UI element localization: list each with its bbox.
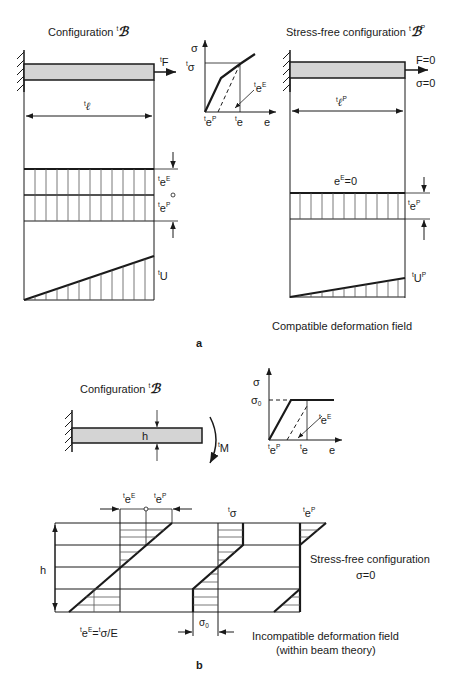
e-axis-label-a: e — [264, 116, 270, 128]
eP-top-label: teP — [154, 492, 166, 505]
profiles-frame — [55, 523, 300, 612]
beam-b — [72, 428, 202, 443]
length-label: tℓ — [84, 100, 91, 113]
config-title-b: Configuration tℬ — [80, 381, 162, 396]
sigma-zero-label: σ=0 — [416, 77, 435, 89]
stress-free-title-a: Stress-free configuration tℬP — [286, 24, 425, 39]
diagram-canvas: Configuration tℬ tF tℓ — [0, 0, 460, 691]
eE-zero-label: eE=0 — [334, 174, 357, 187]
fixed-wall-icon — [65, 410, 72, 452]
fixed-wall-icon — [283, 50, 290, 92]
elastic-strain-equation: teE=tσ/E — [80, 626, 118, 639]
eE-top-label: teE — [123, 492, 136, 505]
panel-label-a: a — [196, 337, 203, 349]
stress-free-sigma-b: σ=0 — [356, 569, 375, 581]
config-title-a-left: Configuration tℬ — [48, 24, 130, 39]
displacement-plot-a-right — [290, 278, 405, 297]
e-tick-b: te — [300, 443, 308, 456]
sigma-axis-label-b: σ — [253, 376, 260, 388]
stress-strain-plot-b — [269, 368, 342, 440]
strain-band-a-left — [24, 152, 178, 238]
beam-a-right — [290, 62, 405, 78]
UP-label: tUP — [412, 271, 426, 284]
incompatible-caption-2: (within beam theory) — [276, 644, 376, 656]
sigma0-tick-label: σ0 — [251, 394, 262, 407]
eP-label-a: teP — [158, 201, 170, 214]
h-label-profile: h — [40, 564, 46, 576]
fixed-wall-icon — [17, 50, 24, 92]
panel-a: Configuration tℬ tF tℓ — [17, 24, 435, 349]
force-label: tF — [160, 56, 169, 68]
eE-label-a: teE — [158, 175, 171, 188]
panel-b: Configuration tℬ h tM σ σ0 teE teP te e — [40, 368, 430, 671]
length-p-label: tℓP — [336, 95, 347, 109]
sigma-tick-label: tσ — [186, 60, 195, 73]
panel-label-b: b — [196, 659, 203, 671]
force-zero-label: F=0 — [416, 54, 435, 66]
moment-label: tM — [218, 441, 229, 454]
h-label-beam: h — [142, 430, 148, 442]
stress-free-title-b: Stress-free configuration — [310, 553, 430, 565]
eE-label-ss-b: teE — [319, 413, 332, 426]
stress-profile — [178, 523, 243, 636]
eP-right-label: teP — [303, 506, 315, 519]
sigma-axis-label: σ — [191, 42, 198, 54]
sigma0-profile-label: σ0 — [199, 617, 209, 629]
e-tick-a: te — [235, 115, 243, 128]
beam-a-left — [24, 64, 154, 80]
eP-tick-b: teP — [268, 443, 280, 456]
displacement-plot-a-left — [24, 256, 154, 300]
moment-arrow-icon — [210, 417, 216, 463]
sigma-profile-label: tσ — [228, 506, 237, 519]
compatible-caption: Compatible deformation field — [272, 320, 412, 332]
eP-label-a-right: teP — [408, 199, 420, 212]
eP-tick-a: teP — [204, 115, 216, 128]
stress-strain-plot-a — [205, 40, 276, 112]
e-axis-label-b: e — [329, 444, 335, 456]
incompatible-caption-1: Incompatible deformation field — [252, 630, 399, 642]
eE-label-ss-a: teE — [254, 81, 267, 94]
U-label: tU — [158, 269, 168, 282]
